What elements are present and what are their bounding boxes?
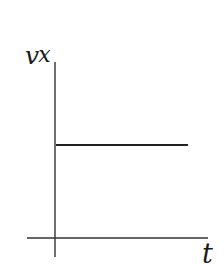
velocity-time-graph: vx t [0, 0, 224, 264]
y-axis-label: vx [25, 43, 51, 68]
y-axis-label-subscript: x [38, 42, 50, 67]
x-axis-label: t [202, 240, 213, 264]
graph-svg [0, 0, 224, 264]
y-axis-label-base: v [25, 41, 39, 70]
